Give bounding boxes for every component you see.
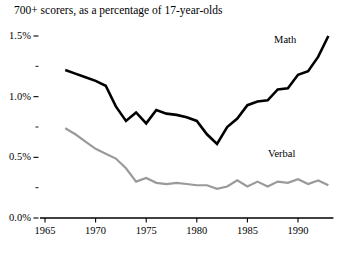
chart-container: 700+ scorers, as a percentage of 17-year…	[0, 0, 339, 254]
x-tick-label: 1980	[175, 225, 219, 236]
x-tick-label: 1985	[225, 225, 269, 236]
y-tick-label: 1.0%	[0, 91, 31, 102]
x-tick-label: 1990	[276, 225, 320, 236]
x-tick-label: 1965	[23, 225, 67, 236]
axes-group	[33, 36, 333, 223]
y-tick-label: 0.0%	[0, 212, 31, 223]
x-tick-label: 1970	[74, 225, 118, 236]
verbal-series-label: Verbal	[268, 148, 295, 159]
series-group	[65, 36, 328, 189]
series-line-math	[65, 36, 328, 144]
y-tick-label: 1.5%	[0, 30, 31, 41]
x-tick-label: 1975	[124, 225, 168, 236]
math-series-label: Math	[274, 34, 296, 45]
y-tick-label: 0.5%	[0, 151, 31, 162]
